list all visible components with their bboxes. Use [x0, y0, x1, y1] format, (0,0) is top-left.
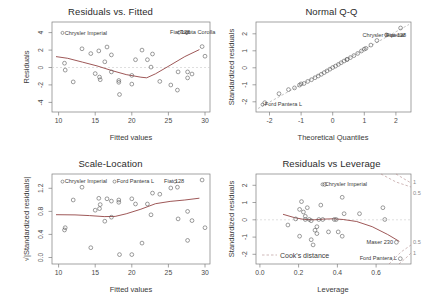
- svg-text:-2: -2: [241, 99, 248, 105]
- svg-text:0: 0: [37, 65, 44, 69]
- x-axis-label: Fitted values: [110, 285, 153, 294]
- svg-text:0.4: 0.4: [37, 229, 44, 239]
- x-tick-labels: -2 -1 0 1 2: [266, 117, 398, 124]
- panel-normal-qq: Normal Q-Q -2: [221, 0, 442, 151]
- svg-text:25: 25: [165, 269, 173, 276]
- svg-text:0.0: 0.0: [37, 253, 44, 263]
- svg-text:0.8: 0.8: [37, 206, 44, 216]
- svg-text:Chrysler Imperial: Chrysler Imperial: [65, 30, 107, 36]
- diagnostic-plot-figure: Residuals vs. Fitted: [0, 0, 442, 303]
- svg-text:1: 1: [241, 200, 248, 204]
- svg-text:-4: -4: [37, 99, 44, 105]
- y-tick-labels: 4 2 0 -2 -4: [37, 30, 44, 105]
- svg-text:0: 0: [241, 218, 248, 222]
- svg-text:15: 15: [91, 117, 99, 124]
- svg-text:-2: -2: [266, 117, 272, 124]
- x-tickmarks: [260, 264, 376, 268]
- svg-text:Fiat 128: Fiat 128: [164, 178, 184, 184]
- y-tick-labels: 1.2 0.8 0.4 0.0: [37, 183, 44, 262]
- svg-text:30: 30: [201, 117, 209, 124]
- y-tick-labels: 2 1 0 -1 -2: [241, 32, 248, 105]
- y-tickmarks: [253, 185, 257, 254]
- svg-text:Ford Pantera L: Ford Pantera L: [360, 255, 397, 261]
- y-tickmarks: [49, 33, 53, 103]
- svg-text:1: 1: [413, 179, 416, 185]
- plot-area-residuals-vs-fitted: 10 15 20 25 30 4 2 0 -2 -4 Fitted values…: [0, 0, 221, 151]
- legend-label: Cook's distance: [280, 252, 329, 259]
- panel-residuals-vs-fitted: Residuals vs. Fitted: [0, 0, 221, 151]
- svg-text:2: 2: [241, 32, 248, 36]
- svg-text:1: 1: [241, 49, 248, 53]
- svg-text:0.2: 0.2: [294, 269, 304, 276]
- y-axis-label: Residuals: [22, 50, 31, 83]
- data-points: [263, 26, 403, 105]
- svg-text:20: 20: [128, 269, 136, 276]
- lowess-smoother: [283, 214, 399, 241]
- y-tickmarks: [253, 34, 257, 102]
- svg-text:Ford Pantera L: Ford Pantera L: [117, 178, 154, 184]
- x-tick-labels: 10 15 20 25 30: [55, 117, 209, 124]
- x-axis-label: Leverage: [317, 285, 348, 294]
- svg-text:4: 4: [37, 30, 44, 34]
- y-tickmarks: [49, 188, 53, 257]
- x-tick-labels: 10 15 20 25 30: [55, 269, 209, 276]
- svg-text:0.6: 0.6: [371, 269, 381, 276]
- svg-text:Fiat 128: Fiat 128: [386, 32, 406, 38]
- svg-text:2: 2: [394, 117, 398, 124]
- svg-text:Chrysler Imperial: Chrysler Imperial: [325, 181, 367, 187]
- plot-area-normal-qq: -2 -1 0 1 2 2 1 0 -1 -2 Theoretical Quan…: [221, 0, 442, 151]
- x-tickmarks: [59, 112, 205, 116]
- svg-text:-1: -1: [241, 234, 248, 240]
- svg-text:1: 1: [413, 250, 416, 256]
- cooks-distance-contours: [381, 174, 411, 264]
- svg-text:0: 0: [241, 66, 248, 70]
- svg-text:-2: -2: [37, 82, 44, 88]
- svg-text:25: 25: [165, 117, 173, 124]
- svg-text:0.0: 0.0: [255, 269, 265, 276]
- svg-text:Toyota Corolla: Toyota Corolla: [180, 29, 217, 35]
- cooks-contour-labels: 1 0.5 0.5 1: [413, 179, 421, 256]
- outlier-labels: Chrysler Imperial Ford Pantera L Fiat 12…: [61, 178, 184, 184]
- svg-text:10: 10: [55, 117, 63, 124]
- x-tickmarks: [270, 112, 396, 116]
- x-tick-labels: 0.0 0.2 0.4 0.6: [255, 269, 381, 276]
- svg-text:0.5: 0.5: [413, 190, 421, 196]
- y-axis-label: Standardized residuals: [227, 29, 236, 106]
- outlier-labels: Chrysler Imperial Fiat 128 Toyota Coroll…: [61, 29, 216, 35]
- svg-text:0.5: 0.5: [413, 239, 421, 245]
- lowess-smoother: [56, 198, 199, 216]
- svg-text:20: 20: [128, 117, 136, 124]
- svg-text:15: 15: [91, 269, 99, 276]
- svg-text:1.2: 1.2: [37, 183, 44, 193]
- panel-residuals-vs-leverage: Residuals vs Leverage 1 0.5 0.5 1: [221, 152, 442, 303]
- svg-text:Chrysler Imperial: Chrysler Imperial: [65, 178, 107, 184]
- y-axis-label: √|Standardized residuals|: [22, 177, 31, 261]
- svg-text:-2: -2: [241, 251, 248, 257]
- svg-text:-1: -1: [241, 82, 248, 88]
- svg-text:Ford Pantera L: Ford Pantera L: [265, 101, 302, 107]
- svg-text:1: 1: [362, 117, 366, 124]
- plot-area-scale-location: 10 15 20 25 30 1.2 0.8 0.4 0.0 Fitted va…: [0, 152, 221, 303]
- plot-area-residuals-vs-leverage: 1 0.5 0.5 1 0.0 0.2 0.4: [221, 152, 442, 303]
- svg-text:2: 2: [241, 183, 248, 187]
- panel-scale-location: Scale-Location 10 15 20: [0, 152, 221, 303]
- svg-text:10: 10: [55, 269, 63, 276]
- x-axis-label: Fitted values: [110, 133, 153, 142]
- svg-text:2: 2: [37, 48, 44, 52]
- svg-text:-1: -1: [298, 117, 304, 124]
- data-points: [63, 45, 207, 97]
- svg-text:Maser 230: Maser 230: [367, 239, 393, 245]
- data-points: [63, 178, 207, 256]
- y-axis-label: Standardized residuals: [227, 181, 236, 258]
- svg-text:0: 0: [331, 117, 335, 124]
- svg-text:0.4: 0.4: [333, 269, 343, 276]
- x-axis-label: Theoretical Quantiles: [298, 133, 369, 142]
- plot-frame: [52, 174, 210, 264]
- y-tick-labels: 2 1 0 -1 -2: [241, 183, 248, 257]
- data-points: [286, 183, 402, 261]
- cooks-distance-legend: Cook's distance: [262, 252, 329, 259]
- x-tickmarks: [59, 264, 205, 268]
- svg-text:30: 30: [201, 269, 209, 276]
